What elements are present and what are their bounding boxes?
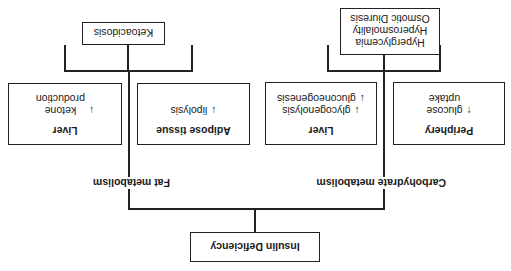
connector-carb-trunk bbox=[384, 72, 386, 210]
down-arrow-icon: ↓ bbox=[355, 105, 360, 117]
insulin-deficiency-label: Insulin Deficiency bbox=[210, 241, 299, 253]
lipolysis-text: lipolysis bbox=[171, 105, 208, 117]
hyperglycemia-box: Hyperglycemia Hyperosmolality Osmotic Di… bbox=[340, 8, 440, 55]
insulin-deficiency-box: Insulin Deficiency bbox=[190, 232, 320, 262]
periphery-box: Periphery ↑ glucose uptake bbox=[393, 82, 505, 145]
periphery-line-1: glucose bbox=[426, 105, 462, 117]
hyperglycemia-text: Hyperglycemia bbox=[355, 38, 424, 50]
osmotic-diuresis-text: Osmotic Diuresis bbox=[350, 14, 429, 26]
adipose-tissue-title: Adipose tissue bbox=[156, 125, 231, 137]
up-arrow-icon: ↑ bbox=[466, 105, 471, 117]
ketoacidosis-text: Ketoacidosis bbox=[94, 28, 154, 40]
connector-root-trunk bbox=[255, 210, 257, 232]
down-arrow-icon: ↓ bbox=[211, 105, 216, 117]
adipose-tissue-box: Adipose tissue ↓lipolysis bbox=[137, 83, 250, 145]
down-arrow-icon: ↓ bbox=[89, 105, 94, 117]
ketoacidosis-box: Ketoacidosis bbox=[82, 22, 165, 45]
periphery-line-2: uptake bbox=[426, 93, 462, 105]
connector-fat-trunk bbox=[129, 72, 131, 210]
fat-liver-title: Liver bbox=[52, 125, 77, 137]
production-text: production bbox=[36, 93, 85, 105]
connector-carb-outcome-stem bbox=[384, 55, 386, 72]
ketone-text: ketone bbox=[36, 105, 85, 117]
glycogenolysis-text: glycogenolysis bbox=[282, 105, 350, 117]
fat-metabolism-label: Fat metabolism bbox=[90, 177, 173, 189]
connector-fat-split bbox=[65, 71, 193, 73]
fat-liver-box: Liver ↓ ketone production bbox=[8, 83, 122, 145]
carbohydrate-metabolism-label: Carbohydrate metabolism bbox=[313, 177, 449, 189]
hyperosmolality-text: Hyperosmolality bbox=[353, 26, 428, 38]
carb-liver-box: Liver ↓glycogenolysis ↓gluconeogenesis bbox=[265, 82, 377, 145]
periphery-title: Periphery bbox=[425, 125, 473, 137]
down-arrow-icon: ↓ bbox=[360, 93, 365, 105]
connector-root-horizontal bbox=[129, 209, 385, 211]
carb-liver-title: Liver bbox=[308, 125, 333, 137]
connector-carb-liver bbox=[328, 45, 330, 72]
insulin-deficiency-diagram: Insulin Deficiency Carbohydrate metaboli… bbox=[0, 0, 511, 271]
connector-fat-outcome-stem bbox=[128, 45, 130, 72]
gluconeogenesis-text: gluconeogenesis bbox=[277, 93, 356, 105]
connector-fat-adipose bbox=[192, 45, 194, 72]
connector-fat-liver bbox=[65, 45, 67, 72]
